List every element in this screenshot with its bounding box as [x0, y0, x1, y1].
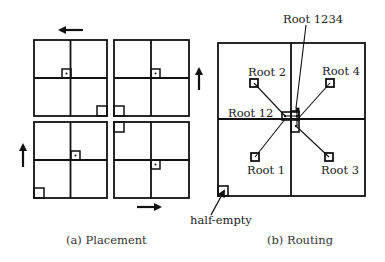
panel-b-routing [211, 25, 365, 215]
root-dot [155, 164, 157, 166]
corner-cell [34, 188, 44, 198]
corner-cell [114, 122, 124, 132]
root-dot [66, 73, 68, 75]
label-root-2: Root 2 [248, 65, 286, 79]
label-root-12: Root 12 [228, 106, 273, 120]
label-root-3: Root 3 [321, 163, 359, 177]
half-empty-cell [218, 186, 228, 196]
grid-bottom-left [34, 122, 107, 198]
root-dot [75, 155, 77, 157]
corner-cell [97, 106, 107, 116]
root-1234-box [291, 111, 299, 132]
grid-top-right [114, 40, 189, 116]
caption-placement: (a) Placement [66, 233, 147, 247]
label-root-4: Root 4 [322, 64, 360, 78]
figure: Root 1234 Root 2 Root 4 Root 12 Root 1 R… [0, 0, 385, 262]
caption-routing: (b) Routing [267, 233, 334, 247]
routing-lines [254, 25, 330, 157]
grid-bottom-right [114, 122, 189, 198]
corner-cell [114, 106, 124, 116]
root-dot [155, 73, 157, 75]
label-half-empty: half-empty [190, 213, 252, 227]
panel-a-placement [23, 30, 199, 207]
label-root-1: Root 1 [247, 163, 285, 177]
grid-top-left [34, 40, 107, 116]
label-root-1234: Root 1234 [283, 12, 343, 26]
